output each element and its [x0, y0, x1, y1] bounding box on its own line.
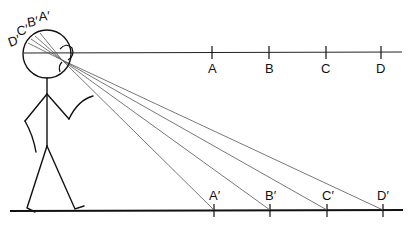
label-A: A	[208, 61, 217, 76]
sight-line	[24, 52, 402, 53]
label-D-prime: D′	[377, 188, 389, 203]
retina-label-A: A′	[38, 8, 51, 24]
label-C: C	[321, 61, 330, 76]
stick-figure	[25, 78, 93, 212]
label-B: B	[265, 61, 274, 76]
label-A-prime: A′	[209, 188, 221, 203]
perspective-diagram: A B C D A′ B′ C′ D′ D′ C′ B′ A′	[0, 0, 410, 225]
label-C-prime: C′	[322, 188, 334, 203]
ground-line	[10, 210, 403, 211]
label-D: D	[376, 61, 385, 76]
projection-rays	[28, 33, 383, 210]
label-B-prime: B′	[265, 188, 277, 203]
eye-lid	[59, 62, 62, 72]
head-circle	[23, 30, 71, 78]
